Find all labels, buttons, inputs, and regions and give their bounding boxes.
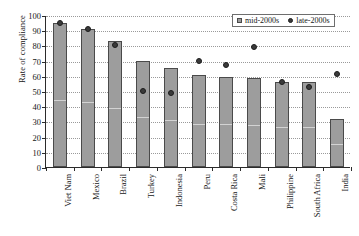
x-tick-label: Brazil — [119, 174, 128, 195]
y-tick-label: 50 — [33, 88, 42, 97]
bar — [164, 68, 178, 167]
x-tick-label: Viet Nam — [64, 174, 73, 207]
x-tick-label: Turkey — [147, 174, 156, 198]
y-tick-mark — [42, 16, 46, 17]
bar — [275, 82, 289, 167]
x-tick-mark — [268, 167, 269, 171]
bar — [302, 82, 316, 167]
y-tick-label: 0 — [37, 164, 41, 173]
x-tick-mark — [296, 167, 297, 171]
x-tick-label: India — [341, 174, 350, 191]
square-marker-icon — [237, 18, 242, 23]
x-tick-label: Costa Rica — [230, 174, 239, 211]
x-tick-mark — [129, 167, 130, 171]
data-point — [223, 62, 229, 68]
x-tick-mark — [185, 167, 186, 171]
y-tick-label: 80 — [33, 42, 42, 51]
y-tick-mark — [42, 138, 46, 139]
bar — [219, 77, 233, 167]
y-tick-label: 30 — [33, 118, 42, 127]
x-tick-mark — [74, 167, 75, 171]
x-tick-label: Peru — [203, 174, 212, 190]
x-tick-mark — [323, 167, 324, 171]
y-tick-mark — [42, 62, 46, 63]
y-tick-label: 10 — [33, 149, 42, 158]
x-tick-mark — [157, 167, 158, 171]
y-tick-label: 90 — [33, 27, 42, 36]
data-point — [85, 26, 91, 32]
x-tick-label: Indonesia — [175, 174, 184, 207]
x-tick-mark — [212, 167, 213, 171]
legend-item-mid-2000s: mid-2000s — [237, 17, 279, 25]
x-tick-label: Philippine — [286, 174, 295, 209]
y-tick-mark — [42, 153, 46, 154]
x-tick-mark — [101, 167, 102, 171]
x-tick-mark — [240, 167, 241, 171]
legend: mid-2000s late-2000s — [232, 14, 335, 27]
legend-label-mid-2000s: mid-2000s — [245, 17, 279, 25]
x-tick-label: Mexico — [92, 174, 101, 200]
bar — [192, 75, 206, 167]
y-tick-mark — [42, 92, 46, 93]
y-tick-label: 100 — [28, 12, 41, 21]
data-point — [196, 58, 202, 64]
y-tick-mark — [42, 107, 46, 108]
bar — [81, 29, 95, 167]
bar — [136, 61, 150, 167]
data-point — [168, 90, 174, 96]
y-tick-mark — [42, 31, 46, 32]
y-tick-label: 40 — [33, 103, 42, 112]
x-tick-mark — [46, 167, 47, 171]
legend-item-late-2000s: late-2000s — [288, 17, 329, 25]
bar — [53, 23, 67, 167]
bar — [330, 119, 344, 167]
data-point — [251, 44, 257, 50]
data-point — [140, 88, 146, 94]
compliance-bar-chart: Rate of compliance 010203040506070809010… — [0, 0, 359, 236]
bar — [247, 78, 261, 167]
x-tick-label: South Africa — [313, 174, 322, 217]
legend-label-late-2000s: late-2000s — [296, 17, 329, 25]
data-point — [279, 79, 285, 85]
x-tick-mark — [351, 167, 352, 171]
y-tick-mark — [42, 122, 46, 123]
circle-marker-icon — [288, 18, 293, 23]
x-tick-label: Mali — [258, 174, 267, 190]
y-tick-label: 20 — [33, 133, 42, 142]
bar — [108, 41, 122, 167]
y-tick-mark — [42, 77, 46, 78]
data-point — [57, 20, 63, 26]
y-tick-mark — [42, 46, 46, 47]
y-axis-title: Rate of compliance — [17, 0, 27, 109]
y-tick-label: 60 — [33, 73, 42, 82]
plot-area: 0102030405060708090100 Viet NamMexicoBra… — [45, 16, 350, 168]
y-tick-label: 70 — [33, 57, 42, 66]
